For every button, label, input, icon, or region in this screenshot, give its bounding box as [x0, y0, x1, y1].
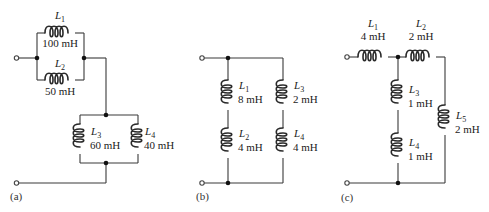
panel-label-b: (b) — [196, 190, 209, 202]
junction-node — [226, 181, 231, 186]
inductor-l2-coil — [406, 50, 429, 61]
inductor-value-a-l2: 50 mH — [45, 86, 75, 97]
junction-node — [396, 55, 401, 60]
inductor-value-b-l3: 2 mH — [293, 94, 318, 105]
inductor-value-c-l4: 1 mH — [408, 151, 433, 162]
inductor-label-b-l3: L3 — [294, 80, 304, 92]
inductor-label-c-l1: L1 — [368, 18, 378, 30]
inductor-l4-coil — [276, 128, 287, 151]
inductor-label-a-l2: L2 — [55, 58, 65, 70]
terminal-top — [345, 55, 349, 59]
terminal-bottom — [345, 181, 349, 185]
circuit-c — [345, 50, 449, 185]
inductor-label-a-l4: L4 — [145, 126, 155, 138]
inductor-label-c-l2: L2 — [416, 18, 426, 30]
inductor-l3-coil — [276, 80, 287, 103]
inductor-l5-coil — [438, 105, 449, 128]
inductor-l1-coil — [45, 26, 68, 37]
inductor-label-c-l5: L5 — [456, 110, 466, 122]
inductor-l4-coil — [391, 133, 402, 156]
inductor-l3-coil — [73, 124, 84, 147]
inductor-value-a-l4: 40 mH — [144, 140, 174, 151]
junction-node — [35, 56, 40, 61]
inductor-l4-coil — [131, 124, 142, 147]
inductor-l2-coil — [221, 128, 232, 151]
inductor-subscript: 2 — [61, 63, 65, 72]
inductor-value-b-l4: 4 mH — [293, 142, 318, 153]
inductor-value-c-l3: 1 mH — [408, 98, 433, 109]
inductor-value-a-l1: 100 mH — [42, 38, 78, 49]
inductor-value-a-l3: 60 mH — [90, 140, 120, 151]
panel-label-c: (c) — [341, 191, 353, 203]
inductor-value-b-l2: 4 mH — [238, 142, 263, 153]
inductor-label-a-l1: L1 — [55, 10, 65, 22]
inductor-l2-coil — [45, 73, 68, 84]
junction-node — [104, 113, 109, 118]
inductor-label-b-l2: L2 — [239, 128, 249, 140]
inductor-value-c-l1: 4 mH — [361, 31, 386, 42]
terminal-top — [200, 56, 204, 60]
junction-node — [82, 56, 87, 61]
inductor-value-c-l2: 2 mH — [409, 31, 434, 42]
circuit-a — [14, 26, 141, 185]
circuit-b — [200, 56, 287, 186]
inductor-label-c-l3: L3 — [409, 84, 419, 96]
inductor-value-c-l5: 2 mH — [455, 124, 480, 135]
panel-label-a: (a) — [10, 190, 22, 202]
inductor-label-a-l3: L3 — [91, 126, 101, 138]
terminal-top — [14, 56, 18, 60]
inductor-label-c-l4: L4 — [409, 137, 419, 149]
terminal-bottom — [200, 181, 204, 185]
junction-node — [396, 181, 401, 186]
terminal-bottom — [14, 181, 18, 185]
junction-node — [226, 56, 231, 61]
inductor-l1-coil — [358, 50, 381, 61]
junction-node — [104, 161, 109, 166]
inductor-value-b-l1: 8 mH — [238, 94, 263, 105]
inductor-subscript: 1 — [61, 15, 65, 24]
inductor-label-b-l4: L4 — [294, 128, 304, 140]
inductor-l3-coil — [391, 80, 402, 103]
inductor-label-b-l1: L1 — [239, 80, 249, 92]
inductor-l1-coil — [221, 80, 232, 103]
